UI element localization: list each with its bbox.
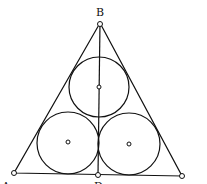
bottom-left-circle-center [66, 140, 70, 144]
top-circle-center [97, 85, 101, 89]
point-d [96, 173, 101, 178]
point-a [12, 171, 17, 176]
label-b: B [96, 6, 104, 19]
label-a: A [1, 180, 11, 184]
point-c [180, 174, 185, 179]
geometry-diagram: B A D [0, 0, 207, 184]
point-b [98, 22, 103, 27]
label-d: D [94, 180, 103, 184]
bottom-right-circle-center [127, 142, 131, 146]
